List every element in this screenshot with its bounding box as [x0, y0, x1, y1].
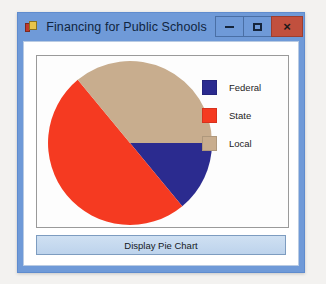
legend-label-federal: Federal	[229, 82, 261, 93]
close-button[interactable]: ×	[271, 16, 303, 37]
maximize-button[interactable]	[243, 16, 271, 37]
minimize-button[interactable]	[215, 16, 243, 37]
minimize-icon	[225, 26, 234, 28]
pie-chart-svg	[47, 60, 213, 226]
application-icon	[24, 20, 38, 34]
legend-swatch-federal	[202, 80, 217, 95]
window-title: Financing for Public Schools	[42, 20, 215, 34]
legend-item-federal: Federal	[202, 73, 280, 101]
application-icon-part-right	[29, 21, 37, 30]
window-controls: ×	[215, 16, 303, 37]
legend-label-local: Local	[229, 138, 252, 149]
title-bar[interactable]: Financing for Public Schools ×	[18, 13, 304, 40]
legend-swatch-state	[202, 108, 217, 123]
pie-chart-panel: Federal State Local	[36, 55, 289, 228]
client-area: Federal State Local Display Pie Chart	[23, 41, 299, 266]
legend-item-local: Local	[202, 129, 280, 157]
application-window: Financing for Public Schools ×	[17, 12, 305, 273]
chart-legend: Federal State Local	[202, 73, 280, 157]
pie-chart	[47, 60, 213, 226]
display-pie-chart-button[interactable]: Display Pie Chart	[36, 235, 286, 255]
legend-label-state: State	[229, 110, 251, 121]
legend-item-state: State	[202, 101, 280, 129]
close-icon: ×	[283, 20, 291, 33]
legend-swatch-local	[202, 136, 217, 151]
maximize-icon	[253, 23, 262, 31]
